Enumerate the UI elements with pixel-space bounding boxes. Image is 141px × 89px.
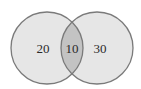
left-only-count: 20 (37, 41, 50, 56)
intersection-count: 10 (66, 41, 79, 56)
right-only-count: 30 (94, 41, 107, 56)
venn-diagram: 20 10 30 (0, 0, 141, 89)
